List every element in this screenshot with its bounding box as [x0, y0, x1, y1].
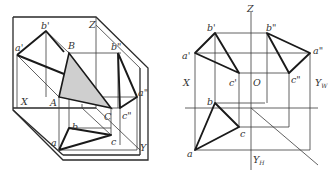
label-c-dprime: c" [122, 110, 132, 121]
label-O: O [253, 77, 261, 88]
label-c-prime-right: c' [229, 77, 237, 88]
label-Z-left: Z [88, 19, 96, 30]
label-C: C [104, 111, 112, 122]
label-B: B [67, 40, 75, 51]
label-b-prime: b' [41, 20, 50, 31]
projection-a-prime-b-prime [17, 31, 64, 55]
top-view-triangle [195, 103, 239, 150]
label-b-right: b [207, 96, 213, 107]
label-a-dprime-right: a" [313, 45, 323, 56]
projector-a-prime-to-A [17, 55, 59, 97]
label-b-dprime-right: b" [266, 22, 276, 33]
label-X-left: X [20, 96, 29, 107]
projection-a-prime-c-prime [17, 55, 64, 74]
projection-triangle-h [59, 128, 111, 150]
label-b-dprime: b" [111, 41, 121, 52]
label-Y-left: Y [140, 142, 148, 153]
right-three-view: Z b' b" a' a" c' c" X O YW b c a YH [182, 3, 328, 170]
label-a-right: a [187, 148, 193, 159]
label-c-right: c [240, 128, 246, 139]
left-pictorial-view: b' a' B Z b" a" X A C c" b a c Y [13, 17, 148, 160]
triangle-ABC-spatial [59, 53, 111, 108]
label-a-dprime: a" [138, 87, 148, 98]
label-a: a [51, 137, 57, 148]
label-Y-W: YW [315, 77, 328, 89]
label-A: A [49, 97, 57, 108]
label-a-prime: a' [15, 42, 23, 53]
projection-triangle-w [118, 53, 137, 108]
label-a-prime-right: a' [182, 50, 190, 61]
h-plane-inner-edge [13, 110, 63, 155]
label-c-dprime-right: c" [291, 74, 301, 85]
projection-diagram: b' a' B Z b" a" X A C c" b a c Y [0, 0, 330, 180]
label-Y-H: YH [253, 154, 265, 166]
label-b-prime-right: b' [207, 22, 216, 33]
label-b: b [72, 121, 78, 132]
label-Z-right: Z [246, 3, 254, 14]
miter-45-line [251, 108, 318, 165]
label-X-right: X [182, 77, 191, 88]
y-axis-line [96, 108, 140, 150]
label-c: c [111, 136, 117, 147]
